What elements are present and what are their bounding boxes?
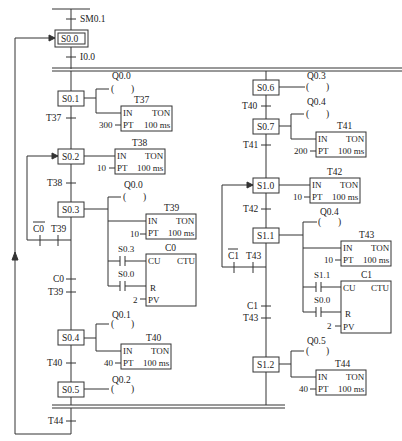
svg-text:S0.6: S0.6 xyxy=(257,83,274,93)
svg-text:S0.7: S0.7 xyxy=(257,122,274,132)
svg-text:TON: TON xyxy=(152,108,171,118)
svg-text:S1.0: S1.0 xyxy=(257,181,274,191)
svg-text:TON: TON xyxy=(340,180,359,190)
svg-text:(: ( xyxy=(111,319,114,330)
svg-text:CTU: CTU xyxy=(177,256,196,266)
svg-text:T40: T40 xyxy=(146,333,162,343)
coil-label: Q0.5 xyxy=(307,336,326,346)
step-s0-5: S0.5 xyxy=(58,382,84,397)
coil-label: Q0.2 xyxy=(112,375,131,385)
svg-text:S0.0: S0.0 xyxy=(314,295,331,305)
arrow-icon xyxy=(247,182,253,188)
svg-text:T39: T39 xyxy=(164,203,180,213)
svg-text:T37: T37 xyxy=(46,113,62,123)
svg-text:S0.1: S0.1 xyxy=(62,94,79,104)
svg-text:100 ms: 100 ms xyxy=(137,163,164,173)
step-s1-1: S1.1 xyxy=(253,228,279,243)
counter-c0: C0 CU CTU R PV 2 xyxy=(133,243,196,306)
svg-text:10: 10 xyxy=(324,255,334,265)
svg-text:PT: PT xyxy=(318,146,329,156)
svg-text:(: ( xyxy=(318,217,321,228)
sfc-drawing: SM0.1 S0.0 I0.0 S0.1 ( ) Q0.0 T37 IN TON… xyxy=(0,0,402,441)
svg-text:C1: C1 xyxy=(228,251,239,261)
step-s0-3: S0.3 xyxy=(58,202,84,217)
svg-text:100 ms: 100 ms xyxy=(363,255,390,265)
step-s1-2: S1.2 xyxy=(253,357,279,372)
svg-text:10: 10 xyxy=(293,192,303,202)
svg-text:): ) xyxy=(131,319,134,330)
svg-text:CU: CU xyxy=(343,283,356,293)
step-s0-6: S0.6 xyxy=(253,80,279,95)
svg-text:): ) xyxy=(131,384,134,395)
svg-text:PT: PT xyxy=(312,192,323,202)
step-s0-4: S0.4 xyxy=(58,330,84,345)
svg-text:(: ( xyxy=(306,346,309,357)
svg-text:R: R xyxy=(345,309,351,319)
trigger-label: SM0.1 xyxy=(80,14,106,24)
svg-text:S0.3: S0.3 xyxy=(118,244,135,254)
coil-label: Q0.4 xyxy=(307,97,326,107)
svg-text:T40: T40 xyxy=(47,358,63,368)
svg-text:T39: T39 xyxy=(51,224,67,234)
svg-text:TON: TON xyxy=(176,216,195,226)
svg-text:C0: C0 xyxy=(165,243,176,253)
svg-text:T44: T44 xyxy=(48,416,64,426)
svg-text:S0.0: S0.0 xyxy=(61,34,78,44)
svg-text:T38: T38 xyxy=(132,138,148,148)
transition-label: I0.0 xyxy=(80,52,95,62)
svg-text:S0.4: S0.4 xyxy=(62,333,79,343)
svg-text:C0: C0 xyxy=(33,224,44,234)
svg-text:IN: IN xyxy=(318,134,328,144)
svg-text:IN: IN xyxy=(343,243,353,253)
svg-text:S0.3: S0.3 xyxy=(62,205,79,215)
svg-text:TON: TON xyxy=(145,151,164,161)
svg-text:IN: IN xyxy=(318,372,328,382)
svg-text:TON: TON xyxy=(151,346,170,356)
svg-text:S1.2: S1.2 xyxy=(257,360,274,370)
svg-text:TON: TON xyxy=(346,134,365,144)
coil-label: Q0.0 xyxy=(112,71,131,81)
svg-text:): ) xyxy=(326,109,329,120)
svg-text:T38: T38 xyxy=(47,178,63,188)
svg-text:(: ( xyxy=(123,192,126,203)
svg-text:C1: C1 xyxy=(361,270,372,280)
svg-text:(: ( xyxy=(111,384,114,395)
arrow-icon xyxy=(52,153,58,159)
svg-text:PT: PT xyxy=(123,120,134,130)
svg-text:S1.1: S1.1 xyxy=(314,270,330,280)
step-s0-7: S0.7 xyxy=(253,119,279,134)
svg-text:T39: T39 xyxy=(48,287,64,297)
svg-text:10: 10 xyxy=(97,163,107,173)
svg-text:IN: IN xyxy=(123,346,133,356)
svg-text:40: 40 xyxy=(104,358,114,368)
svg-text:PT: PT xyxy=(148,228,159,238)
svg-text:S0.0: S0.0 xyxy=(118,269,135,279)
sfc-diagram: SM0.1 S0.0 I0.0 S0.1 ( ) Q0.0 T37 IN TON… xyxy=(0,0,402,441)
svg-text:T41: T41 xyxy=(243,140,259,150)
svg-text:IN: IN xyxy=(148,216,158,226)
svg-text:100 ms: 100 ms xyxy=(168,228,195,238)
svg-text:T42: T42 xyxy=(243,204,259,214)
svg-text:T42: T42 xyxy=(327,167,343,177)
svg-text:S1.1: S1.1 xyxy=(257,231,274,241)
svg-text:PT: PT xyxy=(343,255,354,265)
coil-label: Q0.3 xyxy=(307,71,326,81)
svg-text:): ) xyxy=(338,217,341,228)
svg-text:PV: PV xyxy=(343,322,355,332)
step-s0-1: S0.1 xyxy=(58,91,84,106)
coil-label: Q0.4 xyxy=(320,207,339,217)
svg-text:TON: TON xyxy=(346,372,365,382)
svg-text:CU: CU xyxy=(148,256,161,266)
svg-text:R: R xyxy=(150,283,156,293)
svg-text:T43: T43 xyxy=(243,313,259,323)
svg-text:IN: IN xyxy=(117,151,127,161)
svg-text:C0: C0 xyxy=(53,274,64,284)
coil-paren: ( xyxy=(111,84,114,95)
svg-text:100 ms: 100 ms xyxy=(143,358,170,368)
svg-text:TON: TON xyxy=(371,243,390,253)
svg-text:PT: PT xyxy=(123,358,134,368)
svg-text:CTU: CTU xyxy=(371,283,390,293)
svg-text:T44: T44 xyxy=(335,359,351,369)
svg-text:200: 200 xyxy=(294,146,308,156)
svg-text:100 ms: 100 ms xyxy=(338,384,365,394)
